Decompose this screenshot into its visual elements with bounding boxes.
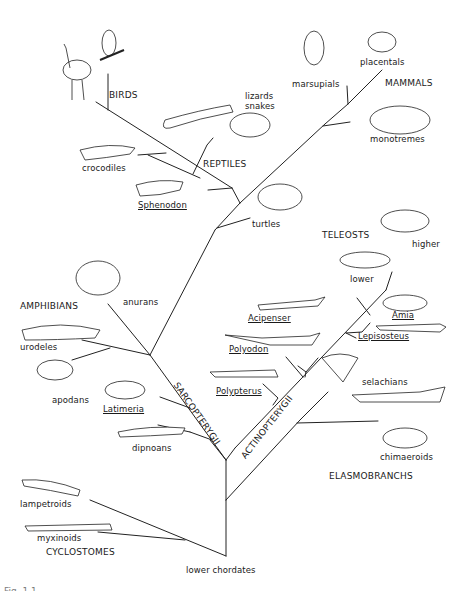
label-crocodiles: crocodiles (82, 164, 126, 173)
label-elasmobranchs: ELASMOBRANCHS (329, 472, 413, 481)
label-teleosts: TELEOSTS (322, 231, 370, 240)
label-lampetroids: lampetroids (20, 500, 72, 509)
label-snakes: snakes (245, 102, 275, 111)
label-birds: BIRDS (109, 91, 138, 100)
label-reptiles: REPTILES (203, 160, 247, 169)
label-placentals: placentals (360, 58, 405, 67)
label-latimeria: Latimeria (103, 405, 144, 414)
label-urodeles: urodeles (20, 343, 57, 352)
label-anurans: anurans (123, 298, 158, 307)
label-amphibians: AMPHIBIANS (20, 302, 78, 311)
label-dipnoans: dipnoans (132, 444, 172, 453)
label-polypterus: Polypterus (216, 387, 262, 396)
label-chimaeroids: chimaeroids (380, 453, 433, 462)
label-amia: Amia (392, 311, 414, 320)
label-cyclostomes: CYCLOSTOMES (46, 548, 115, 557)
label-turtles: turtles (252, 220, 280, 229)
label-sphenodon: Sphenodon (138, 201, 187, 210)
label-acipenser: Acipenser (248, 314, 291, 323)
label-lower: lower (350, 275, 374, 284)
label-monotremes: monotremes (370, 135, 425, 144)
label-lepisosteus: Lepisosteus (358, 332, 409, 341)
label-polyodon: Polyodon (229, 345, 268, 354)
label-myxinoids: myxinoids (37, 534, 81, 543)
label-lizards: lizards (245, 92, 273, 101)
label-marsupials: marsupials (292, 80, 340, 89)
figure-caption-fragment: Fig. 1.1 ... (4, 585, 48, 591)
label-higher: higher (412, 240, 440, 249)
label-root: lower chordates (186, 566, 256, 575)
label-mammals: MAMMALS (385, 79, 433, 88)
label-apodans: apodans (52, 396, 89, 405)
phylogeny-diagram: BIRDS MAMMALS REPTILES TELEOSTS AMPHIBIA… (0, 0, 467, 591)
label-selachians: selachians (362, 378, 408, 387)
